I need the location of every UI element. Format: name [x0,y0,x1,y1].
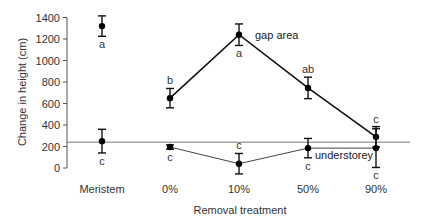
significance-letter: c [99,155,105,167]
data-point [167,144,173,150]
significance-letter: c [373,113,379,125]
line-chart: 0200400600800100012001400 abaabccccccgap… [0,0,423,220]
series-label-gap-area: gap area [255,29,299,41]
series-gap-area: abaabc [98,16,380,147]
x-axis: Meristem0%10%50%90% [79,183,387,195]
y-tick-label: 1400 [36,12,60,24]
y-tick-label: 400 [42,119,60,131]
significance-letter: c [236,139,242,151]
y-axis-title: Change in height (cm) [16,38,28,146]
data-point [305,85,311,91]
series-line [170,35,376,137]
data-point [236,161,242,167]
series-layer: abaabccccccgap areaunderstorey [98,16,380,182]
data-point [305,145,311,151]
significance-letter: c [373,169,379,181]
x-tick-label: 10% [228,183,250,195]
y-tick-label: 800 [42,76,60,88]
chart: 0200400600800100012001400 abaabccccccgap… [0,0,423,220]
significance-letter: c [167,151,173,163]
y-axis: 0200400600800100012001400 [36,12,67,175]
y-tick-label: 0 [54,162,60,174]
data-point [99,138,105,144]
significance-letter: a [236,47,243,59]
significance-letter: c [305,160,311,172]
y-tick-label: 1200 [36,33,60,45]
x-axis-title: Removal treatment [194,204,287,216]
data-point [373,145,379,151]
data-point [167,95,173,101]
significance-letter: b [167,74,173,86]
data-point [236,32,242,38]
data-point [99,23,105,29]
significance-letter: a [99,38,106,50]
x-tick-label: 0% [162,183,178,195]
y-tick-label: 200 [42,141,60,153]
x-tick-label: Meristem [79,183,124,195]
significance-letter: ab [302,63,314,75]
y-tick-label: 600 [42,98,60,110]
x-tick-label: 50% [297,183,319,195]
series-label-understorey: understorey [315,149,374,161]
y-tick-label: 1000 [36,55,60,67]
x-tick-label: 90% [365,183,387,195]
